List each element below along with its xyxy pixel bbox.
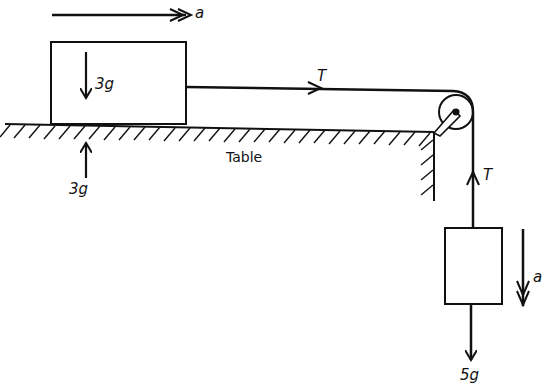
hanging-block bbox=[445, 228, 502, 304]
pulley-diagram: a 3g 3g Table T T a 5g bbox=[0, 0, 549, 388]
tension-horizontal-label: T bbox=[317, 69, 326, 84]
table-block bbox=[51, 42, 186, 124]
block-weight-label: 3g bbox=[95, 77, 114, 92]
accel-hanging-label: a bbox=[533, 270, 542, 285]
tension-vertical-label: T bbox=[483, 168, 492, 183]
table-label: Table bbox=[226, 150, 262, 164]
hanging-weight-label: 5g bbox=[460, 368, 479, 383]
table-surface bbox=[0, 124, 434, 201]
pulley bbox=[434, 91, 473, 136]
acceleration-arrow-top bbox=[52, 9, 191, 21]
accel-top-label: a bbox=[195, 6, 204, 21]
acceleration-arrow-hanging bbox=[517, 229, 529, 306]
normal-force-label: 3g bbox=[69, 182, 88, 197]
